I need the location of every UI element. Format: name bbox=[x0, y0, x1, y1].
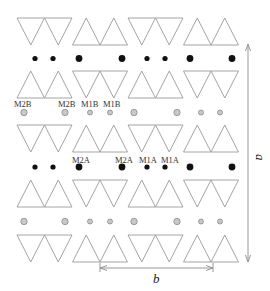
cation-site-gray-r4-2 bbox=[62, 218, 68, 224]
tetrahedron-r2-g3-2-up bbox=[156, 71, 184, 98]
tetrahedron-r3-g2-2-up bbox=[100, 125, 128, 152]
tetrahedron-r4-g3-1-up bbox=[128, 180, 156, 207]
tetrahedron-r1-g1-2-down bbox=[45, 18, 73, 45]
tetrahedron-r5-g1-1-down bbox=[17, 235, 45, 262]
tetrahedron-r4-g3-2-up bbox=[156, 180, 184, 207]
tetrahedron-r1-g2-2-up bbox=[100, 18, 128, 45]
tetrahedron-r1-g2-1-up bbox=[73, 18, 101, 45]
tetrahedron-r3-g4-1-up bbox=[184, 125, 212, 152]
tetrahedron-r3-g3-1-down bbox=[128, 125, 156, 152]
cation-site-gray-r4-1 bbox=[21, 218, 27, 224]
tetrahedron-r1-g4-2-up bbox=[211, 18, 239, 45]
cation-site-black-r3-5 bbox=[144, 164, 149, 169]
cation-site-black-r3-1 bbox=[32, 164, 37, 169]
tetrahedron-r5-g3-2-down bbox=[156, 235, 184, 262]
tetrahedron-r4-g4-1-down bbox=[184, 180, 212, 207]
site-label-m2a-2: M2A bbox=[115, 155, 134, 165]
tetrahedron-r2-g1-2-up bbox=[45, 71, 73, 98]
cation-site-gray-r4-8 bbox=[218, 219, 223, 224]
cation-site-gray-r4-4 bbox=[108, 219, 113, 224]
site-label-m1b-1: M1B bbox=[81, 99, 99, 109]
cation-site-black-r1-7 bbox=[187, 55, 194, 62]
cation-site-black-r1-3 bbox=[76, 55, 83, 62]
cation-site-black-r1-6 bbox=[162, 56, 167, 61]
tetrahedron-r5-g2-1-up bbox=[73, 235, 101, 262]
cation-site-gray-r2-8 bbox=[218, 110, 223, 115]
tetrahedron-r3-g4-2-up bbox=[211, 125, 239, 152]
tetrahedron-r1-g4-1-up bbox=[184, 18, 212, 45]
cation-site-black-r3-7 bbox=[187, 164, 194, 171]
tetrahedron-r2-g4-2-down bbox=[211, 71, 239, 98]
cation-site-black-r3-2 bbox=[50, 164, 55, 169]
tetrahedron-r1-g3-2-down bbox=[156, 18, 184, 45]
axis-b-label: b bbox=[153, 271, 160, 286]
cation-site-gray-r4-5 bbox=[131, 218, 137, 224]
tetrahedron-r3-g1-1-down bbox=[17, 125, 45, 152]
site-label-m1a-1: M1A bbox=[139, 155, 158, 165]
tetrahedron-r3-g2-1-up bbox=[73, 125, 101, 152]
tetrahedron-r2-g2-2-down bbox=[100, 71, 128, 98]
cation-site-gray-r2-4 bbox=[108, 110, 113, 115]
site-label-m2b-1: M2B bbox=[14, 99, 32, 109]
tetrahedron-r5-g1-2-down bbox=[45, 235, 73, 262]
tetrahedron-r5-g4-1-up bbox=[184, 235, 212, 262]
cation-site-black-r1-8 bbox=[229, 55, 236, 62]
site-label-m2a-1: M2A bbox=[72, 155, 91, 165]
tetrahedron-r5-g4-2-up bbox=[211, 235, 239, 262]
tetrahedron-r4-g4-2-down bbox=[211, 180, 239, 207]
tetrahedron-r4-g1-2-up bbox=[45, 180, 73, 207]
cation-site-gray-r2-6 bbox=[174, 109, 180, 115]
tetrahedron-r2-g3-1-up bbox=[128, 71, 156, 98]
tetrahedron-r5-g3-1-down bbox=[128, 235, 156, 262]
cation-site-black-r3-8 bbox=[229, 164, 236, 171]
site-labels-layer: M2B M2B M1B M1B M2A M2A M1A M1A bbox=[14, 99, 180, 165]
cation-site-gray-r2-2 bbox=[62, 109, 68, 115]
axis-a-label: a bbox=[253, 154, 268, 161]
cation-site-black-r3-6 bbox=[162, 164, 167, 169]
tetrahedron-r4-g2-2-down bbox=[100, 180, 128, 207]
tetrahedron-r3-g3-2-down bbox=[156, 125, 184, 152]
cation-site-gray-r4-6 bbox=[174, 218, 180, 224]
tetrahedron-r4-g2-1-down bbox=[73, 180, 101, 207]
tetrahedron-r1-g1-1-down bbox=[17, 18, 45, 45]
site-label-m1b-2: M1B bbox=[103, 99, 121, 109]
cation-site-gray-r2-5 bbox=[131, 109, 137, 115]
cation-site-gray-r4-7 bbox=[199, 219, 204, 224]
tetrahedron-r4-g1-1-up bbox=[17, 180, 45, 207]
cation-site-gray-r2-7 bbox=[199, 110, 204, 115]
crystal-structure-diagram: M2B M2B M1B M1B M2A M2A M1A M1A a b bbox=[0, 0, 270, 291]
tetrahedron-r2-g2-1-down bbox=[73, 71, 101, 98]
cation-site-gray-r2-3 bbox=[88, 110, 93, 115]
site-label-m2b-2: M2B bbox=[58, 99, 76, 109]
cation-site-black-r1-1 bbox=[32, 56, 37, 61]
tetrahedron-r3-g1-2-down bbox=[45, 125, 73, 152]
cation-site-black-r1-2 bbox=[50, 56, 55, 61]
tetrahedron-r5-g2-2-up bbox=[100, 235, 128, 262]
axes-layer: a b bbox=[100, 44, 268, 286]
tetrahedron-r1-g3-1-down bbox=[128, 18, 156, 45]
cation-site-black-r1-5 bbox=[144, 56, 149, 61]
tetrahedra-layer bbox=[17, 18, 239, 262]
site-label-m1a-2: M1A bbox=[161, 155, 180, 165]
cation-site-black-r1-4 bbox=[119, 55, 126, 62]
cation-site-gray-r2-1 bbox=[21, 109, 27, 115]
tetrahedron-r2-g4-1-down bbox=[184, 71, 212, 98]
tetrahedron-r2-g1-1-up bbox=[17, 71, 45, 98]
cation-site-gray-r4-3 bbox=[88, 219, 93, 224]
